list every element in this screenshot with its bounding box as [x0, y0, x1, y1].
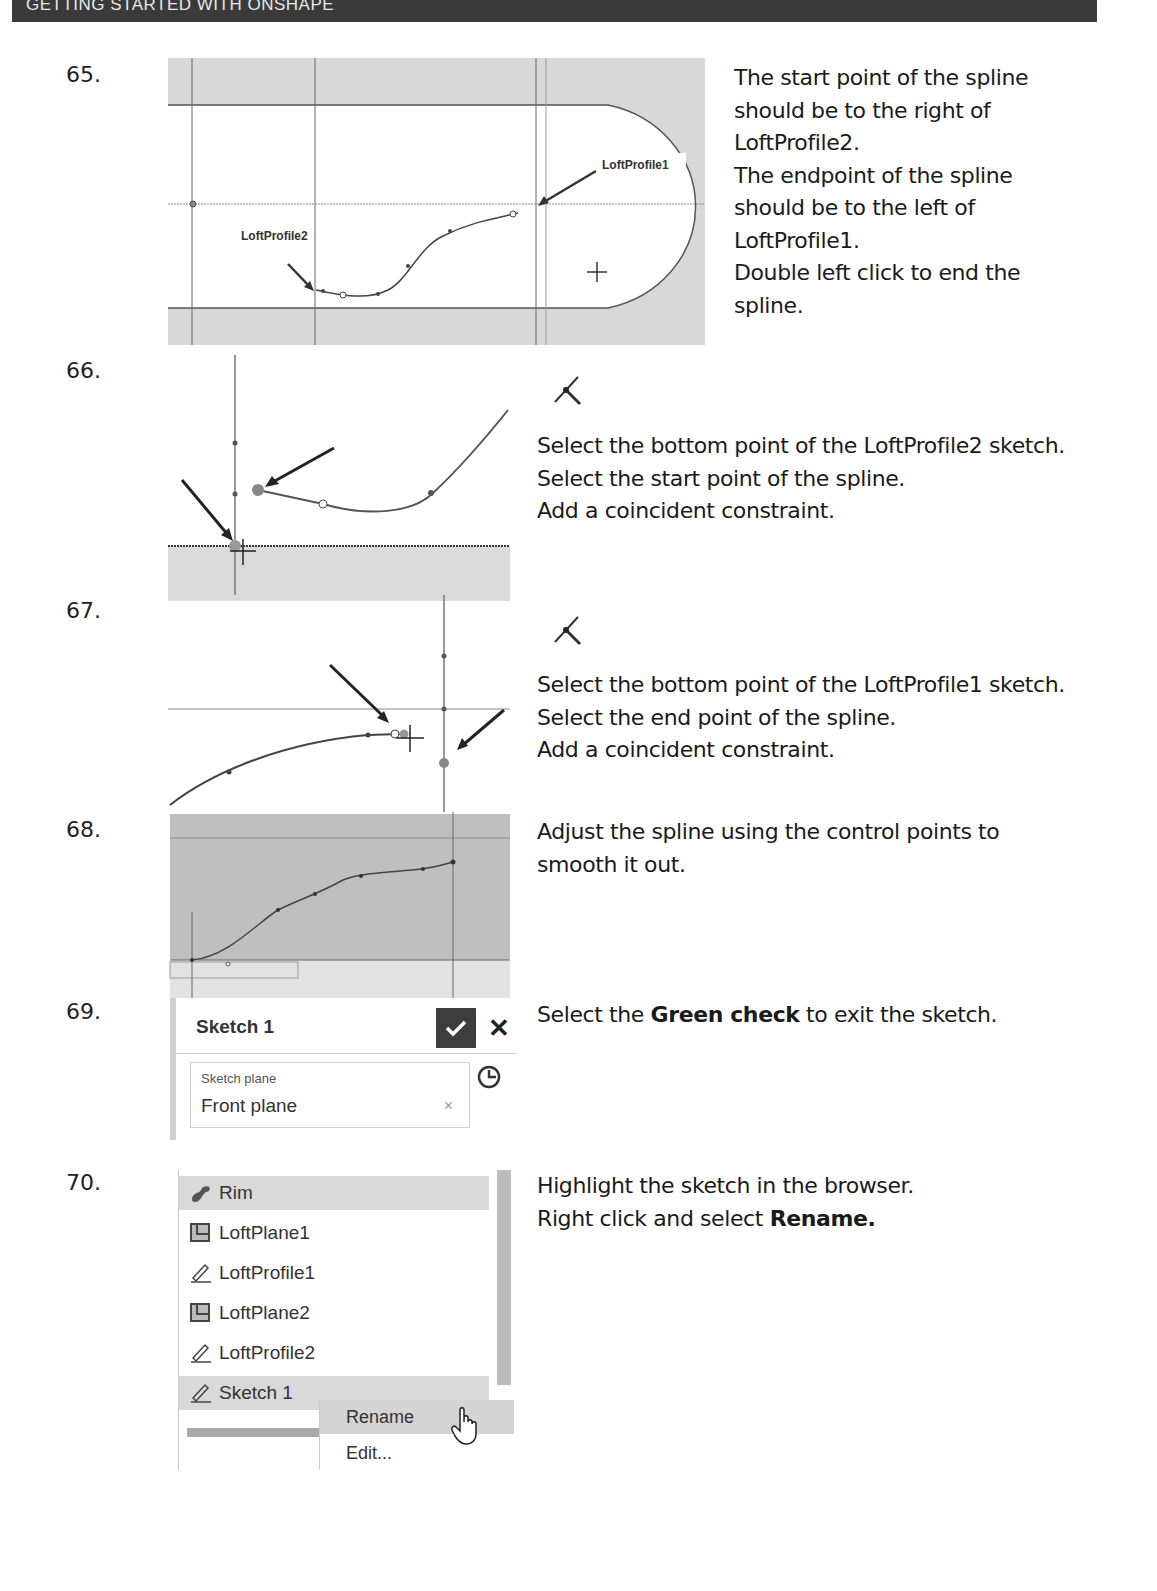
- step-65-description: The start point of the spline should be …: [734, 62, 1028, 322]
- divider: [176, 1053, 517, 1054]
- step-65-figure: LoftProfile1 LoftProfile2: [168, 58, 705, 345]
- desc-bold: Rename.: [770, 1206, 876, 1231]
- desc-line: should be to the left of: [734, 192, 1028, 225]
- step-67-figure: [168, 595, 510, 813]
- sketch-icon: [189, 1262, 213, 1284]
- step-number-69: 69.: [66, 999, 101, 1024]
- desc-text: to exit the sketch.: [800, 1002, 998, 1027]
- desc-line: spline.: [734, 290, 1028, 323]
- history-clock-icon[interactable]: [476, 1064, 502, 1090]
- desc-line: Right click and select Rename.: [537, 1203, 914, 1236]
- tree-item-label: LoftPlane2: [219, 1302, 310, 1324]
- desc-line: LoftProfile2.: [734, 127, 1028, 160]
- context-menu: Rename Edit...: [319, 1400, 513, 1470]
- desc-line: Select the start point of the spline.: [537, 463, 1065, 496]
- plane-icon: [189, 1222, 213, 1244]
- step-number-70: 70.: [66, 1170, 101, 1195]
- tree-item-label: LoftProfile2: [219, 1342, 315, 1364]
- sketch-plane-field[interactable]: Sketch plane Front plane ×: [190, 1062, 470, 1128]
- part-icon: [189, 1182, 213, 1204]
- step-number-67: 67.: [66, 598, 101, 623]
- desc-line: Add a coincident constraint.: [537, 734, 1065, 767]
- desc-line: Select the bottom point of the LoftProfi…: [537, 669, 1065, 702]
- sketch-plane-value: Front plane: [201, 1095, 297, 1117]
- tree-item-label: LoftProfile1: [219, 1262, 315, 1284]
- tree-item-rim[interactable]: Rim: [179, 1176, 489, 1210]
- chapter-title: GETTING STARTED WITH ONSHAPE: [26, 0, 334, 14]
- desc-line: should be to the right of: [734, 95, 1028, 128]
- checkmark-icon: [444, 1018, 468, 1038]
- step-68-figure: [168, 812, 510, 998]
- menu-item-edit[interactable]: Edit...: [320, 1436, 514, 1470]
- tree-item-loftplane2[interactable]: LoftPlane2: [179, 1296, 489, 1330]
- step-67-description: Select the bottom point of the LoftProfi…: [537, 669, 1065, 767]
- desc-bold: Green check: [651, 1002, 800, 1027]
- desc-line: smooth it out.: [537, 849, 999, 882]
- label-loftprofile1: LoftProfile1: [602, 158, 669, 172]
- desc-text: Select the: [537, 1002, 651, 1027]
- sketch-dialog-title: Sketch 1: [196, 1016, 274, 1038]
- progress-bar: [187, 1428, 322, 1437]
- tree-item-label: Rim: [219, 1182, 253, 1204]
- step-69-description: Select the Green check to exit the sketc…: [537, 999, 997, 1032]
- green-check-button[interactable]: [436, 1008, 476, 1048]
- desc-line: Select the bottom point of the LoftProfi…: [537, 430, 1065, 463]
- clear-selection-icon[interactable]: ×: [444, 1097, 453, 1115]
- sketch-plane-label: Sketch plane: [201, 1071, 276, 1086]
- desc-text: Right click and select: [537, 1206, 770, 1231]
- step-number-65: 65.: [66, 62, 101, 87]
- label-loftprofile2: LoftProfile2: [241, 229, 308, 243]
- feature-browser: Rim LoftPlane1 LoftProfile1 LoftPlane2 L…: [178, 1170, 511, 1470]
- step-66-description: Select the bottom point of the LoftProfi…: [537, 430, 1065, 528]
- desc-line: LoftProfile1.: [734, 225, 1028, 258]
- step-70-description: Highlight the sketch in the browser. Rig…: [537, 1170, 914, 1235]
- sketch-icon: [189, 1382, 213, 1404]
- sketch-icon: [189, 1342, 213, 1364]
- coincident-constraint-icon: [552, 612, 592, 652]
- desc-line: Adjust the spline using the control poin…: [537, 816, 999, 849]
- desc-line: The endpoint of the spline: [734, 160, 1028, 193]
- tree-item-label: Sketch 1: [219, 1382, 293, 1404]
- chapter-header: GETTING STARTED WITH ONSHAPE: [12, 0, 1097, 22]
- desc-line: Double left click to end the: [734, 257, 1028, 290]
- hand-cursor-icon: [450, 1406, 484, 1446]
- desc-line: The start point of the spline: [734, 62, 1028, 95]
- step-number-66: 66.: [66, 358, 101, 383]
- step-68-description: Adjust the spline using the control poin…: [537, 816, 999, 881]
- step-number-68: 68.: [66, 817, 101, 842]
- menu-item-rename[interactable]: Rename: [320, 1400, 514, 1434]
- desc-line: Add a coincident constraint.: [537, 495, 1065, 528]
- desc-line: Highlight the sketch in the browser.: [537, 1170, 914, 1203]
- browser-scrollbar[interactable]: [497, 1170, 511, 1385]
- tree-item-loftplane1[interactable]: LoftPlane1: [179, 1216, 489, 1250]
- tree-item-loftprofile1[interactable]: LoftProfile1: [179, 1256, 489, 1290]
- sketch-dialog: Sketch 1 ✕ Sketch plane Front plane ×: [170, 998, 517, 1140]
- step-66-figure: [168, 355, 510, 595]
- tree-item-loftprofile2[interactable]: LoftProfile2: [179, 1336, 489, 1370]
- tree-item-label: LoftPlane1: [219, 1222, 310, 1244]
- close-dialog-button[interactable]: ✕: [484, 1010, 514, 1046]
- coincident-constraint-icon: [552, 372, 592, 412]
- desc-line: Select the end point of the spline.: [537, 702, 1065, 735]
- plane-icon: [189, 1302, 213, 1324]
